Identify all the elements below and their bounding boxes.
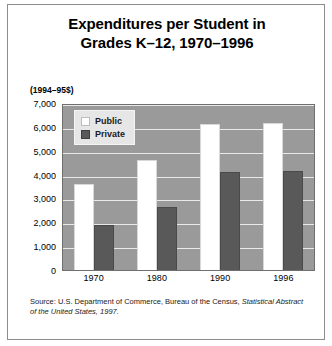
x-axis-tick-label: 1970 [73,273,115,283]
y-axis-tick-label: 2,000 [33,218,56,228]
y-axis-tick-label: 3,000 [33,194,56,204]
legend-item-private: Private [81,129,125,139]
chart-figure: Expenditures per Student in Grades K–12,… [7,4,325,340]
x-axis-tick-label: 1996 [262,273,304,283]
legend-swatch-public [81,117,90,126]
y-axis-tick-label: 0 [51,266,56,276]
bar-public-1990 [200,124,220,270]
chart-title-line-2: Grades K–12, 1970–1996 [8,33,326,52]
chart-title: Expenditures per Student in Grades K–12,… [8,14,326,52]
legend-label-private: Private [95,129,125,139]
x-axis: 1970198019901996 [62,273,315,287]
bar-private-1980 [157,207,177,270]
bar-private-1990 [220,172,240,270]
bar-group [137,105,177,270]
legend-swatch-private [81,130,90,139]
source-note: Source: U.S. Department of Commerce, Bur… [30,297,308,317]
y-axis-tick-label: 5,000 [33,147,56,157]
y-axis-tick-label: 4,000 [33,171,56,181]
chart-title-line-1: Expenditures per Student in [8,14,326,33]
legend-label-public: Public [95,116,122,126]
bar-public-1980 [137,160,157,270]
y-axis-tick-label: 6,000 [33,123,56,133]
y-axis-units-label: (1994–95$) [30,85,73,95]
legend-item-public: Public [81,116,125,126]
bar-public-1970 [74,184,94,270]
x-axis-tick-label: 1990 [199,273,241,283]
y-axis-tick-label: 1,000 [33,242,56,252]
bar-group [263,105,303,270]
chart-legend: PublicPrivate [74,110,135,145]
x-axis-tick-label: 1980 [136,273,178,283]
bar-public-1996 [263,123,283,270]
source-note-prefix: Source: U.S. Department of Commerce, Bur… [30,297,242,306]
y-axis: 7,0006,0005,0004,0003,0002,0001,0000 [18,104,60,271]
bar-private-1996 [283,171,303,270]
bar-group [200,105,240,270]
bar-private-1970 [94,225,114,270]
y-axis-tick-label: 7,000 [33,99,56,109]
